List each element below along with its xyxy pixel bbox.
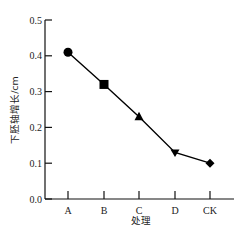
line-chart: 0.00.10.20.30.40.5 ABCDCK 处理 下胚轴增长/cm (0, 0, 251, 233)
marker-square (100, 80, 109, 89)
y-axis-ticks: 0.00.10.20.30.40.5 (30, 15, 53, 205)
y-tick-label: 0.0 (30, 194, 43, 205)
x-axis-ticks: ABCDCK (64, 191, 217, 216)
marker-circle (64, 48, 73, 57)
y-tick-label: 0.3 (30, 86, 43, 97)
series-line (68, 52, 210, 163)
x-tick-label: B (101, 205, 108, 216)
axes (45, 20, 234, 199)
y-tick-label: 0.1 (30, 158, 43, 169)
data-series (64, 48, 215, 168)
x-axis-title: 处理 (131, 215, 151, 226)
y-tick-label: 0.5 (30, 15, 43, 26)
x-tick-label: D (171, 205, 178, 216)
y-axis-title: 下胚轴增长/cm (9, 76, 20, 144)
y-tick-label: 0.2 (30, 122, 43, 133)
x-tick-label: A (64, 205, 72, 216)
marker-diamond (206, 159, 215, 168)
x-tick-label: CK (203, 205, 218, 216)
y-tick-label: 0.4 (30, 50, 43, 61)
